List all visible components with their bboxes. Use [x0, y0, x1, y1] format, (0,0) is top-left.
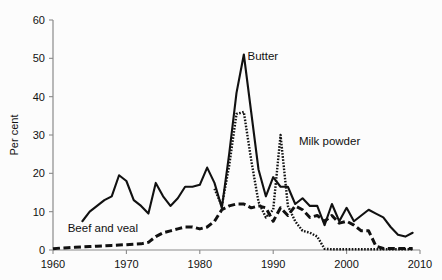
y-tick-label: 60 — [33, 14, 45, 26]
y-tick-label: 10 — [33, 206, 45, 218]
y-axis-tick-labels: 0102030405060 — [33, 14, 45, 256]
x-tick-label: 1970 — [114, 258, 138, 270]
y-tick-label: 50 — [33, 52, 45, 64]
x-axis-tick-labels: 196019701980199020002010 — [41, 258, 432, 270]
y-tick-label: 0 — [39, 244, 45, 256]
y-tick-label: 30 — [33, 129, 45, 141]
x-axis-ticks — [53, 250, 420, 254]
axis-group — [49, 20, 420, 254]
y-tick-label: 40 — [33, 91, 45, 103]
x-tick-label: 1960 — [41, 258, 65, 270]
chart-container: 0102030405060 196019701980199020002010 P… — [0, 0, 442, 280]
series-label-butter: Butter — [248, 50, 279, 62]
y-tick-label: 20 — [33, 167, 45, 179]
series-line-butter — [82, 55, 412, 237]
line-chart: 0102030405060 196019701980199020002010 P… — [0, 0, 442, 280]
x-tick-label: 2010 — [408, 258, 432, 270]
series-label-beef-and-veal: Beef and veal — [68, 222, 138, 234]
series-line-milk-powder — [214, 112, 412, 249]
data-series-group — [53, 55, 413, 250]
y-axis-title: Per cent — [8, 115, 20, 156]
x-tick-label: 1980 — [188, 258, 212, 270]
x-tick-label: 1990 — [261, 258, 285, 270]
x-tick-label: 2000 — [334, 258, 358, 270]
series-label-milk-powder: Milk powder — [299, 135, 361, 147]
